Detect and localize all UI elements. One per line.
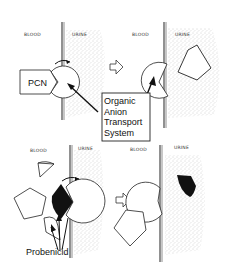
transport-diagram: BLOOD URINE PCN BLOOD URINE Organic: [0, 0, 233, 273]
panel-bottom-left: BLOOD URINE Probenicid: [14, 145, 105, 258]
callout-line-2: Anion: [104, 107, 127, 117]
transport-system-callout: Organic Anion Transport System: [102, 93, 150, 141]
urine-label: URINE: [174, 145, 189, 150]
blood-label: BLOOD: [30, 148, 47, 153]
blood-label: BLOOD: [132, 32, 149, 37]
blood-label: BLOOD: [130, 147, 147, 152]
probenicid-label: Probenicid: [26, 247, 69, 257]
blood-label: BLOOD: [24, 32, 41, 37]
callout-line-1: Organic: [104, 96, 136, 106]
urine-label: URINE: [72, 32, 87, 37]
transition-arrow-top: [110, 60, 123, 74]
callout-line-4: System: [104, 128, 134, 138]
pcn-label: PCN: [28, 78, 47, 88]
callout-line-3: Transport: [104, 117, 143, 127]
panel-bottom-right: BLOOD URINE: [114, 145, 205, 262]
urine-label: URINE: [78, 146, 93, 151]
free-substrate-pentagon: [14, 188, 46, 219]
urine-label: URINE: [175, 32, 190, 37]
free-substrate-pentagon: [114, 210, 146, 246]
panel-top-left: BLOOD URINE PCN: [20, 22, 105, 120]
urine-stipple: [165, 155, 205, 255]
free-substrate-wedge: [38, 163, 54, 177]
